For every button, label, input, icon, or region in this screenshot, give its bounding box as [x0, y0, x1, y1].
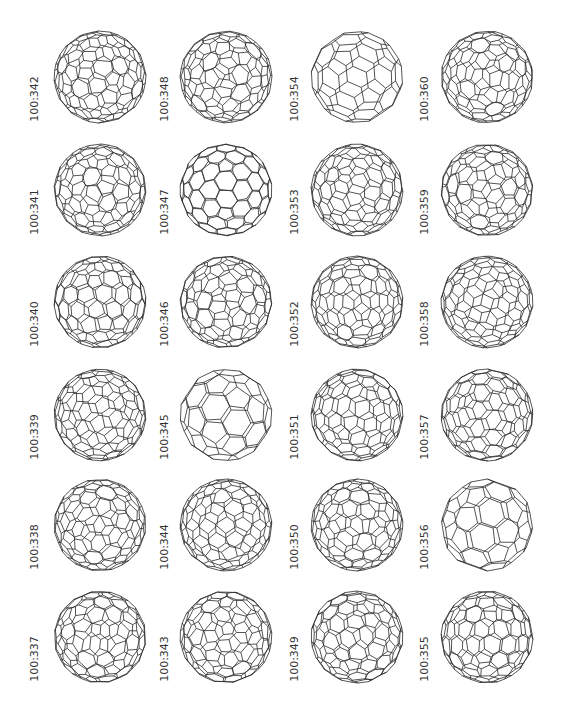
fullerene-cage-diagram — [52, 29, 148, 125]
fullerene-cage-diagram — [309, 589, 405, 685]
structure-label: 100:349 — [289, 629, 301, 689]
structure-label: 100:341 — [29, 182, 41, 242]
structure-label: 100:347 — [159, 182, 171, 242]
fullerene-cage-diagram — [178, 29, 274, 125]
structure-label: 100:353 — [289, 182, 301, 242]
structure-label: 100:354 — [289, 69, 301, 129]
fullerene-cage-diagram — [52, 477, 148, 573]
fullerene-cage-diagram — [439, 29, 535, 125]
fullerene-cage-diagram — [439, 477, 535, 573]
structure-label: 100:340 — [29, 294, 41, 354]
structure-label: 100:344 — [159, 517, 171, 577]
fullerene-cage-diagram — [309, 254, 405, 350]
structure-label: 100:359 — [419, 182, 431, 242]
structure-label: 100:339 — [29, 407, 41, 467]
fullerene-cage-diagram — [309, 477, 405, 573]
structure-label: 100:345 — [159, 407, 171, 467]
fullerene-cage-diagram — [439, 254, 535, 350]
fullerene-cage-diagram — [439, 367, 535, 463]
structure-label: 100:360 — [419, 69, 431, 129]
fullerene-cage-diagram — [52, 254, 148, 350]
fullerene-cage-diagram — [309, 142, 405, 238]
fullerene-cage-diagram — [178, 254, 274, 350]
structure-label: 100:338 — [29, 517, 41, 577]
fullerene-cage-diagram — [309, 367, 405, 463]
fullerene-cage-diagram — [439, 589, 535, 685]
structure-label: 100:358 — [419, 294, 431, 354]
fullerene-cage-diagram — [178, 589, 274, 685]
structure-label: 100:342 — [29, 69, 41, 129]
fullerene-cage-diagram — [309, 29, 405, 125]
structure-label: 100:348 — [159, 69, 171, 129]
fullerene-cage-diagram — [52, 367, 148, 463]
structure-label: 100:350 — [289, 517, 301, 577]
structure-label: 100:356 — [419, 517, 431, 577]
fullerene-cage-diagram — [52, 589, 148, 685]
fullerene-cage-diagram — [439, 142, 535, 238]
fullerene-cage-diagram — [178, 367, 274, 463]
structure-label: 100:352 — [289, 294, 301, 354]
fullerene-cage-diagram — [52, 142, 148, 238]
structure-label: 100:351 — [289, 407, 301, 467]
structure-label: 100:357 — [419, 407, 431, 467]
structure-label: 100:343 — [159, 629, 171, 689]
structure-label: 100:346 — [159, 294, 171, 354]
structure-label: 100:337 — [29, 629, 41, 689]
fullerene-cage-diagram — [178, 142, 274, 238]
structure-label: 100:355 — [419, 629, 431, 689]
fullerene-cage-diagram — [178, 477, 274, 573]
